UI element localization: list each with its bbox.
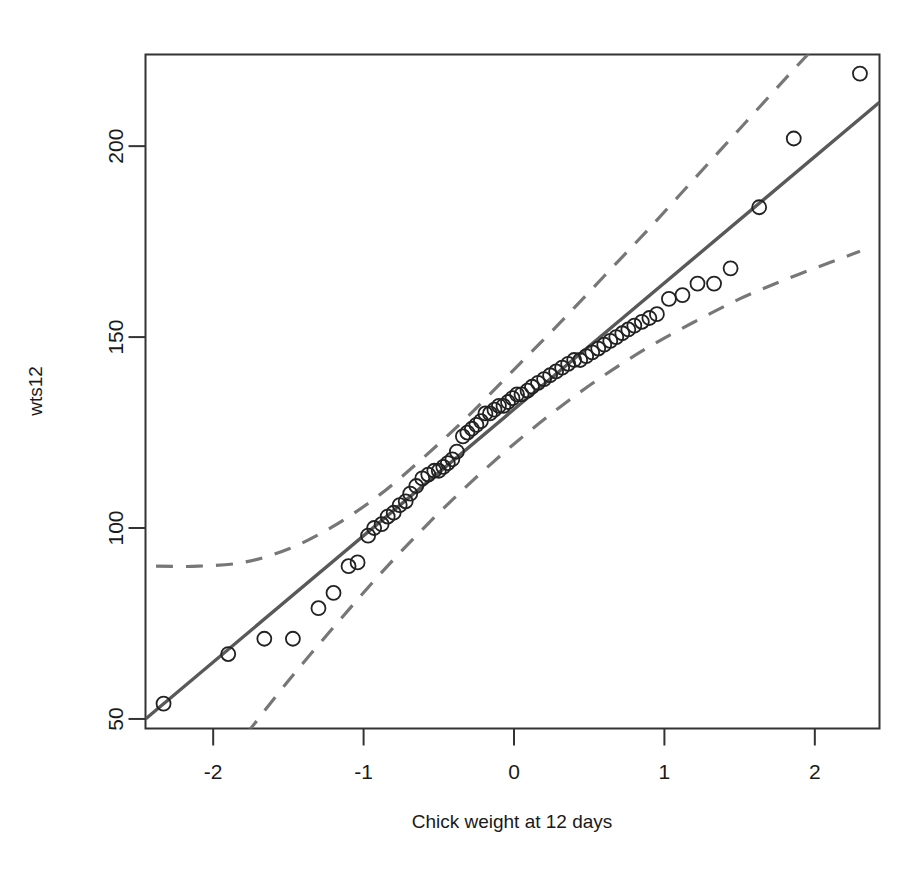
x-tick-label: 0 (508, 760, 520, 783)
y-tick-label: 150 (104, 320, 127, 355)
chart-figure: -2-1012 50100150200 Chick weight at 12 d… (0, 0, 922, 872)
x-axis-title: Chick weight at 12 days (412, 811, 613, 832)
x-tick-label: -1 (354, 760, 373, 783)
y-tick-label: 50 (104, 707, 127, 730)
x-tick-label: -2 (204, 760, 223, 783)
y-tick-label: 100 (104, 510, 127, 545)
x-tick-label: 1 (659, 760, 671, 783)
y-axis-title: wts12 (25, 366, 46, 417)
scatter-plot-svg: -2-1012 50100150200 Chick weight at 12 d… (0, 0, 922, 872)
y-tick-label: 200 (104, 129, 127, 164)
x-tick-label: 2 (809, 760, 821, 783)
